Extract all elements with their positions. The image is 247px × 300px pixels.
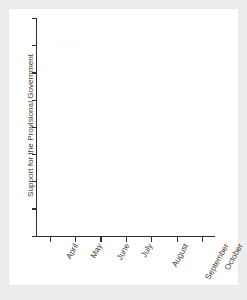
- x-axis-tick: [100, 237, 101, 242]
- figure-paper: Support Support for the Provisional Gove…: [9, 9, 238, 285]
- x-axis-tick: [151, 237, 152, 242]
- x-tick-label-july: July: [139, 242, 154, 259]
- x-tick-label-august: August: [170, 242, 190, 269]
- y-axis-tick: [32, 18, 37, 19]
- y-axis-title: Support for the Provisional Government: [26, 26, 35, 226]
- x-tick-label-may: May: [89, 242, 104, 260]
- x-axis-tick: [126, 237, 127, 242]
- plot-watermark-text: Support: [55, 41, 82, 48]
- x-axis-tick: [50, 237, 51, 242]
- x-tick-label-april: April: [64, 242, 80, 261]
- y-axis-tick: [32, 236, 37, 237]
- x-axis-tick: [75, 237, 76, 242]
- x-axis-tick: [177, 237, 178, 242]
- x-tick-label-june: June: [115, 242, 131, 262]
- figure-root: Support Support for the Provisional Gove…: [0, 0, 247, 300]
- chart-canvas: Support Support for the Provisional Gove…: [9, 9, 238, 285]
- plot-area: Support: [37, 18, 215, 236]
- x-axis-tick: [202, 237, 203, 242]
